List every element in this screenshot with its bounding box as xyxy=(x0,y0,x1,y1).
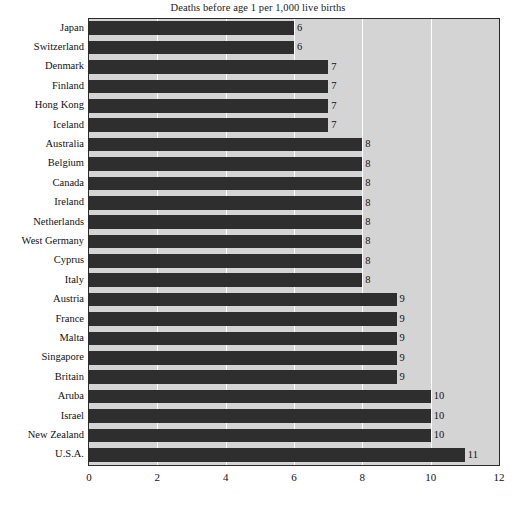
y-axis-tick-label: Singapore xyxy=(0,350,84,364)
bar xyxy=(89,409,431,423)
y-axis-labels: JapanSwitzerlandDenmarkFinlandHong KongI… xyxy=(0,18,84,466)
bar xyxy=(89,177,362,191)
y-axis-tick-label: U.S.A. xyxy=(0,447,84,461)
y-axis-tick-label: Switzerland xyxy=(0,40,84,54)
bar-row: 8 xyxy=(89,174,499,193)
bar-row: 8 xyxy=(89,271,499,290)
chart-page: Deaths before age 1 per 1,000 live birth… xyxy=(0,0,516,517)
x-axis-tick-label: 10 xyxy=(425,470,436,484)
bar xyxy=(89,390,431,404)
y-axis-tick-label: Malta xyxy=(0,331,84,345)
bar-row: 8 xyxy=(89,252,499,271)
y-axis-tick-label: Iceland xyxy=(0,118,84,132)
y-axis-tick-label: West Germany xyxy=(0,234,84,248)
x-axis-tick-label: 6 xyxy=(291,470,297,484)
y-axis-tick-label: Netherlands xyxy=(0,215,84,229)
bar-row: 10 xyxy=(89,387,499,406)
bar-value-label: 8 xyxy=(365,176,370,190)
bar-value-label: 8 xyxy=(365,157,370,171)
x-axis-tick-label: 8 xyxy=(360,470,366,484)
bar-value-label: 9 xyxy=(400,331,405,345)
y-axis-tick-label: Austria xyxy=(0,292,84,306)
bar xyxy=(89,196,362,210)
bar-value-label: 11 xyxy=(468,448,478,462)
y-axis-tick-label: Israel xyxy=(0,409,84,423)
y-axis-tick-label: Canada xyxy=(0,176,84,190)
x-axis-tick-label: 2 xyxy=(155,470,161,484)
bar-row: 8 xyxy=(89,135,499,154)
bar xyxy=(89,80,328,94)
bar xyxy=(89,448,465,462)
y-axis-tick-label: Hong Kong xyxy=(0,98,84,112)
y-axis-tick-label: Belgium xyxy=(0,156,84,170)
bar-value-label: 6 xyxy=(297,40,302,54)
bar-value-label: 8 xyxy=(365,254,370,268)
bar-value-label: 7 xyxy=(331,118,336,132)
y-axis-tick-label: Aruba xyxy=(0,389,84,403)
bar-value-label: 10 xyxy=(434,409,445,423)
y-axis-tick-label: Italy xyxy=(0,273,84,287)
bar-row: 9 xyxy=(89,290,499,309)
x-axis-tick-label: 4 xyxy=(223,470,229,484)
bar-row: 10 xyxy=(89,426,499,445)
x-axis-tick-label: 12 xyxy=(494,470,505,484)
bar xyxy=(89,293,397,307)
bar-row: 8 xyxy=(89,155,499,174)
bar xyxy=(89,351,397,365)
bar-row: 6 xyxy=(89,19,499,38)
bar-row: 7 xyxy=(89,97,499,116)
bar-value-label: 8 xyxy=(365,234,370,248)
bar-row: 9 xyxy=(89,349,499,368)
bar xyxy=(89,312,397,326)
bar-value-label: 8 xyxy=(365,215,370,229)
bar-value-label: 8 xyxy=(365,137,370,151)
bar xyxy=(89,118,328,132)
bar-row: 8 xyxy=(89,232,499,251)
y-axis-tick-label: Denmark xyxy=(0,59,84,73)
x-axis-tick-label: 0 xyxy=(86,470,92,484)
x-axis-labels: 024681012 xyxy=(88,470,500,486)
y-axis-tick-label: Finland xyxy=(0,79,84,93)
y-axis-tick-label: France xyxy=(0,312,84,326)
y-axis-tick-label: Australia xyxy=(0,137,84,151)
bar-series: 667777888888889999910101011 xyxy=(89,19,499,465)
bar-row: 8 xyxy=(89,194,499,213)
bar xyxy=(89,429,431,443)
bar-value-label: 9 xyxy=(400,292,405,306)
bar xyxy=(89,332,397,346)
bar xyxy=(89,215,362,229)
bar-value-label: 7 xyxy=(331,60,336,74)
y-axis-tick-label: Cyprus xyxy=(0,253,84,267)
bar-value-label: 10 xyxy=(434,428,445,442)
bar-row: 7 xyxy=(89,58,499,77)
bar xyxy=(89,235,362,249)
bar xyxy=(89,138,362,152)
bar-value-label: 10 xyxy=(434,389,445,403)
y-axis-tick-label: Japan xyxy=(0,21,84,35)
y-axis-tick-label: Britain xyxy=(0,370,84,384)
y-axis-tick-label: New Zealand xyxy=(0,428,84,442)
bar-value-label: 9 xyxy=(400,370,405,384)
bar-row: 10 xyxy=(89,407,499,426)
bar-value-label: 9 xyxy=(400,312,405,326)
bar xyxy=(89,21,294,35)
bar xyxy=(89,99,328,113)
bar-row: 9 xyxy=(89,310,499,329)
bar xyxy=(89,60,328,74)
chart-title: Deaths before age 1 per 1,000 live birth… xyxy=(0,2,516,13)
bar-row: 7 xyxy=(89,116,499,135)
bar-value-label: 7 xyxy=(331,79,336,93)
bar-row: 7 xyxy=(89,77,499,96)
bar-row: 6 xyxy=(89,38,499,57)
bar-value-label: 8 xyxy=(365,196,370,210)
bar xyxy=(89,370,397,384)
bar-row: 8 xyxy=(89,213,499,232)
bar-value-label: 8 xyxy=(365,273,370,287)
y-axis-tick-label: Ireland xyxy=(0,195,84,209)
bar xyxy=(89,157,362,171)
plot-area: 667777888888889999910101011 xyxy=(88,18,500,466)
bar-row: 11 xyxy=(89,446,499,465)
bar-row: 9 xyxy=(89,368,499,387)
bar xyxy=(89,254,362,268)
bar xyxy=(89,273,362,287)
